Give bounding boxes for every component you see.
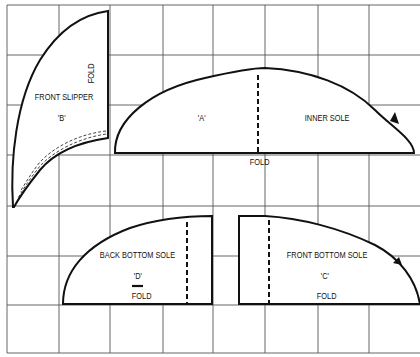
inner-sole-label: INNER SOLE — [304, 113, 350, 123]
inner-sole-fold-label: FOLD — [249, 157, 270, 167]
pattern-diagram — [0, 0, 420, 357]
notch-marker-icon — [390, 112, 399, 124]
front-slipper-label: FRONT SLIPPER — [34, 92, 94, 102]
back-bottom-sole-label: BACK BOTTOM SOLE — [99, 250, 176, 260]
front-bottom-sole-fold-label: FOLD — [316, 291, 337, 301]
inner-sole-id: 'A' — [197, 113, 206, 123]
front-slipper-fold-label: FOLD — [86, 63, 96, 84]
back-bottom-sole-id: 'D' — [133, 271, 143, 281]
front-slipper-piece — [12, 11, 108, 207]
front-bottom-sole-id: 'C' — [320, 271, 330, 281]
front-slipper-id: 'B' — [57, 113, 66, 123]
front-bottom-sole-label: FRONT BOTTOM SOLE — [286, 250, 368, 260]
back-bottom-sole-fold-label: FOLD — [131, 291, 152, 301]
